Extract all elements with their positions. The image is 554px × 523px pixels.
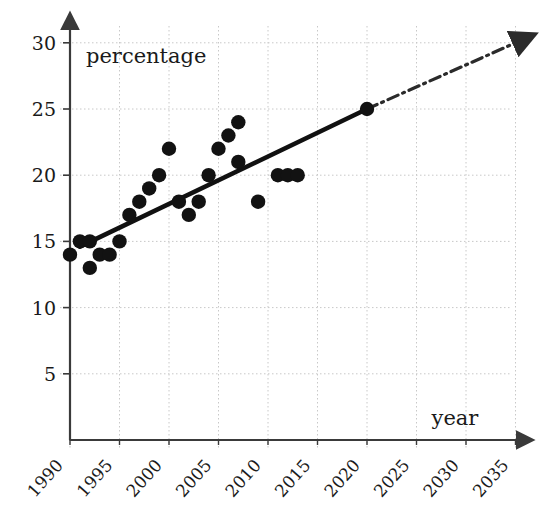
x-gridlines-group [70,26,516,448]
trend-lines-group [80,43,516,247]
x-tick-label: 2010 [221,455,265,501]
data-point [122,208,136,222]
data-point [251,194,265,208]
data-point [172,194,186,208]
y-tick-label: 10 [32,297,56,319]
x-tick-label: 2005 [172,455,216,501]
data-point [231,115,245,129]
y-axis-title: percentage [86,44,206,68]
data-point [231,155,245,169]
projection [367,43,516,109]
data-point [182,208,196,222]
y-tick-label: 25 [32,98,56,120]
scatter-plot-svg: 51015202530 1990199520002005201020152020… [0,0,554,523]
x-axis-title: year [431,406,480,430]
y-tick-labels-group: 51015202530 [32,32,70,385]
plot-border [70,34,512,440]
x-tick-label: 2015 [271,455,315,501]
data-point [152,168,166,182]
x-tick-label: 1990 [23,455,67,501]
data-point [142,181,156,195]
data-point [211,142,225,156]
trend-line [80,109,367,247]
data-point [102,247,116,261]
endpoint-marker [360,102,374,116]
data-point [83,234,97,248]
x-tick-label: 1995 [73,455,117,501]
plot-frame [70,34,512,440]
data-point [162,142,176,156]
data-point [112,234,126,248]
x-tick-label: 2025 [370,455,414,501]
x-tick-label: 2035 [469,455,513,501]
chart-container: 51015202530 1990199520002005201020152020… [0,0,554,523]
axes-group [70,28,518,440]
data-point [83,261,97,275]
x-tick-label: 2020 [320,455,364,501]
y-tick-label: 5 [44,363,56,385]
x-tick-label: 2030 [419,455,463,501]
data-point [192,194,206,208]
data-point [63,247,77,261]
data-point [201,168,215,182]
y-tick-label: 15 [32,230,56,252]
data-point [291,168,305,182]
y-tick-label: 30 [32,32,56,54]
x-tick-label: 2000 [122,455,166,501]
y-tick-label: 20 [32,164,56,186]
x-tick-labels-group: 1990199520002005201020152020202520302035 [23,440,515,501]
data-point [132,194,146,208]
data-point [221,128,235,142]
